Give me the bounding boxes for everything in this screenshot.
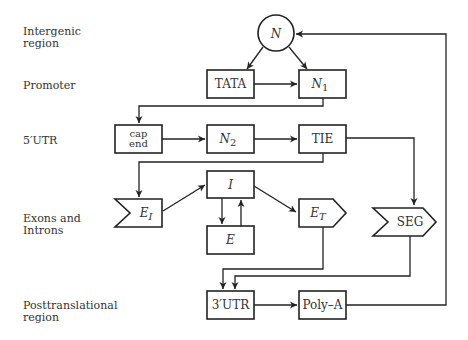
- node-3utr: 3′UTR: [207, 291, 254, 319]
- node-3utr-label: 3′UTR: [212, 298, 250, 312]
- node-tie-label: TIE: [312, 132, 334, 146]
- row-label-exons-introns: Exons and Introns: [23, 212, 81, 237]
- node-e-t: ET: [299, 199, 346, 227]
- row-label-promoter: Promoter: [23, 79, 76, 92]
- node-n-label: N: [270, 27, 282, 41]
- node-tata: TATA: [207, 70, 254, 98]
- node-i: I: [207, 171, 254, 198]
- gene-structure-diagram: Intergenic region Promoter 5′UTR Exons a…: [0, 0, 468, 340]
- edge-n1-capend: [139, 98, 323, 123]
- node-i-label: I: [227, 178, 233, 192]
- label-line: region: [23, 37, 59, 50]
- row-label-intergenic: Intergenic region: [23, 25, 81, 50]
- label-line: region: [23, 311, 59, 324]
- edge-n-tata: [247, 47, 263, 69]
- node-tata-label: TATA: [215, 77, 247, 91]
- row-label-posttranslational: Posttranslational region: [23, 299, 118, 324]
- node-cap-end: cap end: [115, 125, 162, 153]
- node-e-i: EI: [115, 199, 162, 227]
- edge-n-n1: [289, 47, 307, 69]
- node-n2: N2: [207, 125, 254, 153]
- node-tie: TIE: [299, 125, 346, 153]
- node-e-i-shape: [115, 199, 162, 227]
- node-poly-a: Poly–A: [299, 291, 346, 319]
- edge-i-et: [254, 186, 296, 212]
- row-label-5utr: 5′UTR: [23, 134, 58, 147]
- label-line: Promoter: [23, 79, 76, 92]
- node-n1: N1: [299, 70, 346, 98]
- node-seg-label: SEG: [397, 215, 424, 229]
- node-e-label: E: [225, 233, 235, 247]
- node-n: N: [258, 15, 294, 51]
- edge-ei-i: [163, 185, 205, 211]
- label-line: 5′UTR: [23, 134, 58, 147]
- node-poly-a-label: Poly–A: [302, 298, 342, 312]
- label-line: Introns: [23, 224, 64, 237]
- node-end-label: end: [129, 138, 148, 149]
- edges: [139, 34, 446, 305]
- node-seg: SEG: [373, 208, 436, 236]
- node-e: E: [207, 226, 254, 254]
- edge-tie-seg: [346, 138, 414, 205]
